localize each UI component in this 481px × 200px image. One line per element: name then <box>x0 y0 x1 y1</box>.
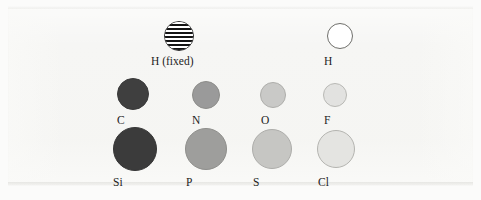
atom-label-h-fixed: H (fixed) <box>151 55 193 67</box>
atom-label-f: F <box>324 114 330 126</box>
paper-tint-vertical <box>8 7 473 185</box>
atom-label-si: Si <box>113 176 123 188</box>
paper-tint-horizontal <box>8 7 473 185</box>
hatch-stripes-icon <box>164 21 194 51</box>
atom-sphere-h-fixed <box>164 21 194 51</box>
atom-sphere-f <box>323 83 347 107</box>
atom-sphere-n <box>192 81 220 109</box>
atom-sphere-c <box>117 78 149 110</box>
atom-label-p: P <box>186 176 192 188</box>
atom-sphere-s <box>252 129 292 169</box>
atom-label-cl: Cl <box>318 176 329 188</box>
atom-label-n: N <box>192 114 200 126</box>
atom-label-s: S <box>253 176 259 188</box>
atom-sphere-o <box>260 82 286 108</box>
atom-label-o: O <box>261 114 269 126</box>
element-sphere-legend-figure: H (fixed) H C N O F Si P S Cl <box>0 0 481 200</box>
atom-label-c: C <box>117 114 125 126</box>
atom-label-h: H <box>324 55 332 67</box>
figure-panel-background <box>8 7 473 185</box>
atom-sphere-cl <box>317 130 355 168</box>
atom-sphere-h <box>327 23 353 49</box>
atom-sphere-si <box>113 127 157 171</box>
atom-sphere-p <box>185 128 227 170</box>
